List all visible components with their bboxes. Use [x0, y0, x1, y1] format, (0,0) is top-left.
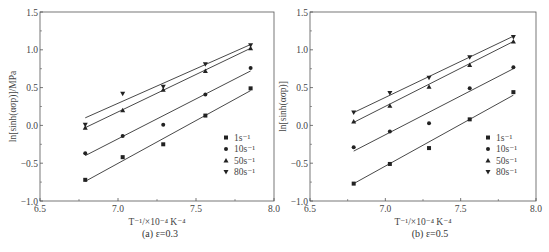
data-point: [388, 162, 392, 166]
y-tick-label: 1.5: [296, 8, 308, 18]
data-point: [121, 134, 125, 138]
series-2: [351, 39, 516, 124]
legend-marker: [486, 170, 491, 175]
data-point: [203, 62, 208, 67]
y-axis-label: ln[sinh(ασp)]: [278, 81, 289, 132]
y-tick-label: −1.0: [21, 197, 38, 207]
x-tick-label: 7.0: [379, 204, 391, 214]
fit-line: [85, 71, 250, 156]
y-tick-label: 1.5: [26, 8, 38, 18]
data-point: [83, 178, 87, 182]
legend-marker: [224, 158, 229, 163]
y-tick-label: 1.0: [296, 45, 308, 55]
legend-label: 80s⁻¹: [234, 167, 255, 177]
x-axis-label: T⁻¹/×10⁻⁴ K⁻⁴: [128, 217, 186, 227]
legend-label: 10s⁻¹: [234, 144, 255, 154]
chart-panel-a: 6.57.07.58.0−1.0−0.50.00.51.01.5T⁻¹/×10⁻…: [0, 0, 275, 252]
chart-b-caption: (b) ε=0.5: [360, 228, 500, 239]
data-point: [121, 155, 125, 159]
data-point: [203, 114, 207, 118]
plot-area: 6.57.07.58.0−1.0−0.50.00.51.01.5T⁻¹/×10⁻…: [8, 8, 280, 228]
chart-a-plot: 6.57.07.58.0−1.0−0.50.00.51.01.5T⁻¹/×10⁻…: [0, 0, 285, 230]
data-point: [83, 151, 87, 155]
legend: 1s⁻¹10s⁻¹50s⁻¹80s⁻¹: [224, 133, 256, 178]
chart-a-caption: (a) ε=0.3: [90, 228, 230, 239]
legend-marker: [486, 147, 490, 151]
legend-label: 80s⁻¹: [496, 167, 517, 177]
y-tick-label: 0.0: [296, 121, 308, 131]
data-point: [352, 182, 356, 186]
data-point: [388, 129, 392, 133]
legend-label: 50s⁻¹: [496, 156, 517, 166]
legend: 1s⁻¹10s⁻¹50s⁻¹80s⁻¹: [486, 133, 518, 178]
data-point: [511, 90, 515, 94]
chart-b-plot: 6.57.07.58.0−1.0−0.50.00.51.01.5T⁻¹/×10⁻…: [270, 0, 549, 230]
data-point: [427, 121, 431, 125]
data-point: [511, 39, 516, 44]
data-point: [203, 92, 207, 96]
data-point: [120, 92, 125, 97]
data-point: [351, 111, 356, 116]
legend-marker: [224, 136, 228, 140]
chart-panel-b: 6.57.07.58.0−1.0−0.50.00.51.01.5T⁻¹/×10⁻…: [270, 0, 549, 252]
legend-marker: [486, 136, 490, 140]
legend-marker: [486, 158, 491, 163]
y-axis-label: ln[sinh(ασp)]/MPa: [8, 70, 19, 142]
y-tick-label: 1.0: [26, 45, 38, 55]
data-point: [161, 85, 166, 90]
y-tick-label: −1.0: [291, 197, 308, 207]
data-point: [161, 142, 165, 146]
legend-marker: [224, 147, 228, 151]
y-tick-label: 0.0: [26, 121, 38, 131]
series-0: [352, 90, 516, 185]
data-point: [468, 117, 472, 121]
x-axis-label: T⁻¹/×10⁻⁴ K⁻⁴: [394, 217, 452, 227]
data-point: [387, 103, 392, 108]
y-tick-label: 0.5: [296, 83, 308, 93]
plot-area: 6.57.07.58.0−1.0−0.50.00.51.01.5T⁻¹/×10⁻…: [278, 8, 542, 228]
x-tick-label: 7.5: [190, 204, 202, 214]
y-tick-label: −0.5: [21, 159, 38, 169]
fit-line: [85, 45, 250, 118]
data-point: [468, 86, 472, 90]
data-point: [511, 65, 515, 69]
data-point: [161, 123, 165, 127]
legend-marker: [224, 170, 229, 175]
data-point: [352, 145, 356, 149]
series-3: [83, 43, 253, 127]
y-tick-label: −0.5: [291, 159, 308, 169]
x-tick-label: 8.0: [530, 204, 542, 214]
data-point: [249, 86, 253, 90]
fit-line: [354, 36, 514, 112]
series-1: [83, 66, 252, 156]
fit-line: [85, 48, 250, 127]
x-tick-label: 7.5: [455, 204, 467, 214]
legend-label: 1s⁻¹: [496, 133, 512, 143]
legend-label: 10s⁻¹: [496, 144, 517, 154]
series-3: [351, 35, 516, 115]
x-tick-label: 7.0: [112, 204, 124, 214]
data-point: [427, 76, 432, 81]
legend-label: 1s⁻¹: [234, 133, 250, 143]
series-0: [83, 86, 252, 181]
data-point: [427, 146, 431, 150]
legend-label: 50s⁻¹: [234, 156, 255, 166]
data-point: [249, 66, 253, 70]
series-2: [83, 46, 253, 130]
y-tick-label: 0.5: [26, 83, 38, 93]
